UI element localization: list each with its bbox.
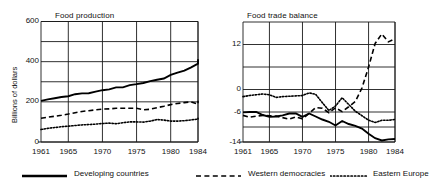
y-tick-label: 400 [13,56,39,65]
legend-label-eastern-europe: Eastern Europe [373,169,429,178]
x-tick-label: 1965 [54,147,82,156]
legend-swatch-solid [22,171,67,181]
y-tick-label: 0 [219,84,241,93]
legend-label-western-democracies: Western democracies [248,169,325,178]
y-tick-label: 600 [13,16,39,25]
x-tick-label: 1975 [322,147,350,156]
legend-swatch-dashed [196,171,241,181]
y-tick-label: -6 [219,107,241,116]
legend-swatch-dotted [330,171,368,181]
y-tick-label: 0 [13,137,39,146]
y-tick-label: 12 [219,39,241,48]
x-tick-label: 1965 [255,147,283,156]
y-tick-label: 200 [13,96,39,105]
x-tick-label: 1970 [288,147,316,156]
x-tick-label: 1970 [88,147,116,156]
series-line-developing-countries [243,112,395,141]
x-tick-label: 1980 [157,147,185,156]
x-tick-label: 1984 [184,147,212,156]
series-line-western-democracies [243,34,395,119]
x-tick-label: 1975 [123,147,151,156]
x-tick-label: 1984 [381,147,409,156]
legend-label-developing-countries: Developing countries [74,169,149,178]
x-tick-label: 1961 [27,147,55,156]
x-tick-label: 1980 [355,147,383,156]
y-tick-label: -14 [219,137,241,146]
x-tick-label: 1961 [229,147,257,156]
